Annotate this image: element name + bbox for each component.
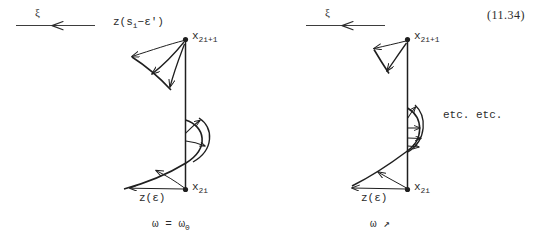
right-lower-long-vector xyxy=(352,188,406,189)
left-caption-text: ω = ω xyxy=(152,218,185,230)
left-bottom-point-label-head: x xyxy=(192,181,199,193)
right-caption-text: ω ↗ xyxy=(370,218,390,230)
right-lower-vector-label: z(ε) xyxy=(361,193,387,204)
left-node-x2i1 xyxy=(183,37,188,42)
left-top-point-label: x2i+1 xyxy=(192,31,218,44)
right-etc-label: etc. etc. xyxy=(443,110,502,121)
right-top-point-label-sub: 2i+1 xyxy=(421,35,440,44)
right-upper-long-vector xyxy=(374,41,406,49)
right-top-point-label: x2i+1 xyxy=(414,31,440,44)
left-caption-sub: 0 xyxy=(185,223,190,232)
equation-number: (11.34) xyxy=(487,9,525,21)
left-upper-vector-label: z(si−ε') xyxy=(113,17,164,30)
right-spiral-curve xyxy=(352,108,420,186)
left-xi-symbol: ξ xyxy=(35,7,40,18)
right-lobe-arrow-4 xyxy=(408,146,419,147)
left-bottom-point-label-sub: 2i xyxy=(199,186,209,195)
left-lower-long-vector xyxy=(130,188,184,189)
right-xi-symbol: ξ xyxy=(325,7,330,18)
left-top-point-label-head: x xyxy=(192,30,199,42)
right-panel-drawing xyxy=(306,22,423,193)
right-lobe-arrow-3 xyxy=(408,138,421,139)
right-bottom-point-label-sub: 2i xyxy=(421,186,431,195)
left-xi-axis xyxy=(16,22,95,30)
right-bottom-point-label-head: x xyxy=(414,181,421,193)
right-upper-envelope xyxy=(374,50,389,74)
right-bottom-point-label: x2i xyxy=(414,182,430,195)
left-upper-long-vector xyxy=(132,41,184,57)
right-xi-axis xyxy=(306,22,385,30)
right-lower-mid-vector xyxy=(378,172,407,188)
figure-drawing xyxy=(0,0,554,247)
left-panel-drawing xyxy=(16,22,210,193)
right-upper-mid-vector xyxy=(387,43,407,71)
left-bottom-point-label: x2i xyxy=(192,182,208,195)
left-panel-caption: ω = ω0 xyxy=(152,219,190,232)
left-lower-vector-label: z(ε) xyxy=(139,193,165,204)
figure-container: (11.34) ξ z(si−ε') x2i+1 z(ε) x2i ω = ω0… xyxy=(0,0,554,247)
left-top-point-label-sub: 2i+1 xyxy=(199,35,218,44)
left-upper-vector-label-tail: −ε') xyxy=(138,16,164,28)
left-spiral-curve xyxy=(124,120,202,189)
left-upper-vector-label-head: z(s xyxy=(113,16,133,28)
left-lower-mid-vector xyxy=(156,171,185,189)
right-top-point-label-head: x xyxy=(414,30,421,42)
right-panel-caption: ω ↗ xyxy=(370,219,390,232)
